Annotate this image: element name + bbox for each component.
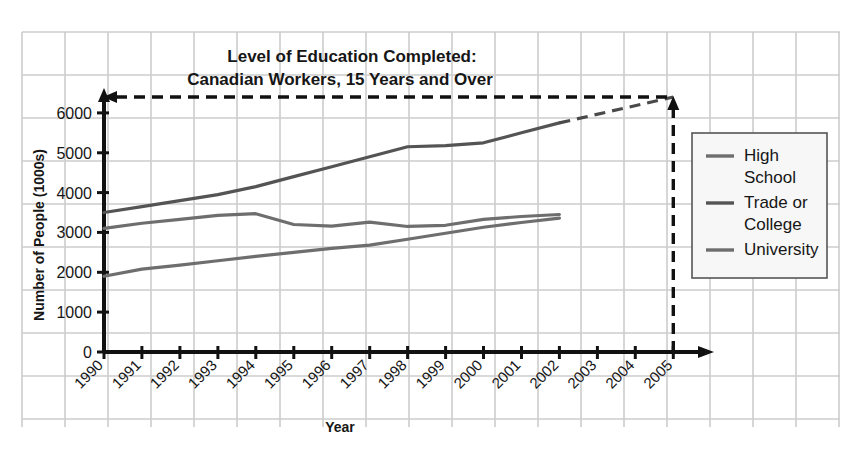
legend-label-1-line2: College	[744, 215, 802, 234]
legend-label-1: Trade or	[744, 193, 808, 212]
line-chart: 0100020003000400050006000 19901991199219…	[0, 0, 852, 456]
legend-label-2: University	[744, 240, 819, 259]
legend-label-0-line2: School	[744, 168, 796, 187]
y-tick-label: 2000	[56, 264, 92, 281]
y-axis-label: Number of People (1000s)	[31, 149, 47, 321]
legend: HighSchoolTrade orCollegeUniversity	[692, 133, 827, 278]
legend-label-0: High	[744, 146, 779, 165]
x-axis-label: Year	[325, 419, 355, 435]
y-tick-label: 6000	[56, 105, 92, 122]
chart-title: Level of Education Completed:	[227, 47, 476, 66]
chart-figure: 0100020003000400050006000 19901991199219…	[0, 0, 852, 456]
y-tick-label: 5000	[56, 145, 92, 162]
y-tick-label: 3000	[56, 224, 92, 241]
y-tick-label: 1000	[56, 304, 92, 321]
y-tick-label: 4000	[56, 185, 92, 202]
chart-subtitle: Canadian Workers, 15 Years and Over	[187, 70, 493, 89]
